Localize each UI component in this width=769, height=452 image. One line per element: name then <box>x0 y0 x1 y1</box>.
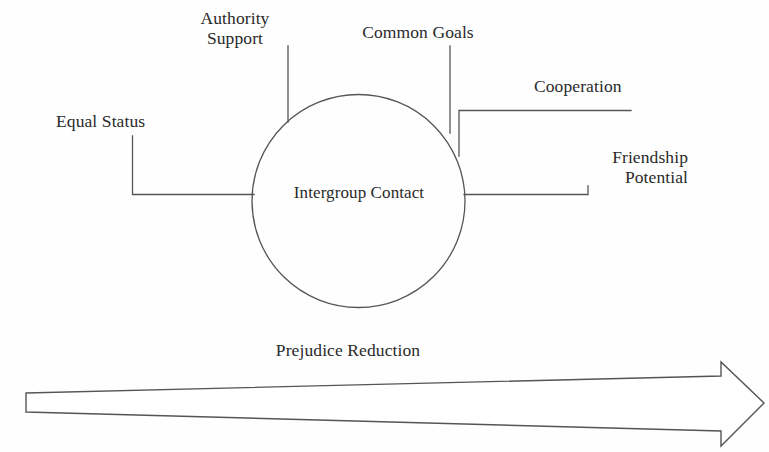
equal-status-connector <box>133 136 255 195</box>
label-intergroup-contact: Intergroup Contact <box>256 183 462 203</box>
diagram-vector-layer <box>0 0 769 452</box>
friendship-potential-connector <box>464 186 588 195</box>
label-friendship-potential: Friendship Potential <box>578 147 688 187</box>
prejudice-reduction-arrow <box>26 362 764 446</box>
label-authority-support: Authority Support <box>183 8 287 48</box>
label-cooperation: Cooperation <box>534 76 664 96</box>
label-common-goals: Common Goals <box>340 22 496 42</box>
label-equal-status: Equal Status <box>56 111 184 131</box>
diagram-canvas: Authority Support Common Goals Cooperati… <box>0 0 769 452</box>
label-prejudice-reduction: Prejudice Reduction <box>230 340 466 360</box>
